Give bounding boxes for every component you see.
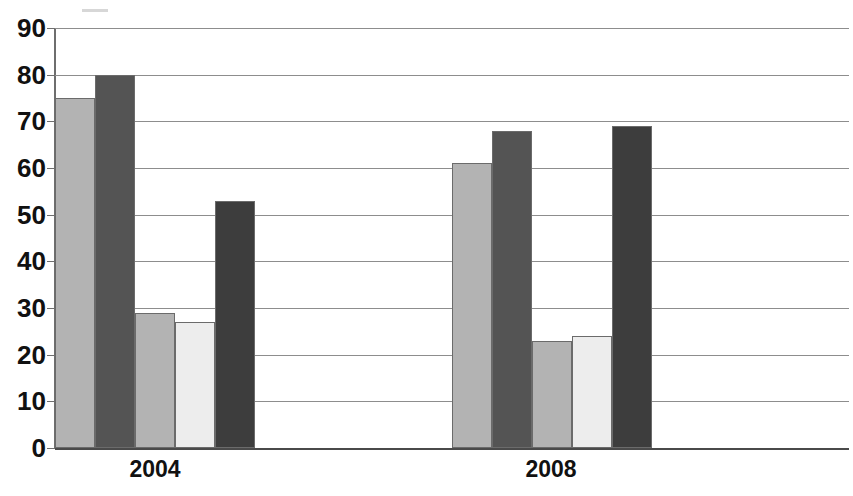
y-axis-tick-60 — [47, 168, 55, 169]
y-axis-tick-10 — [47, 401, 55, 402]
y-axis-label-40: 40 — [0, 248, 46, 274]
bar-2004-series-4 — [175, 322, 215, 448]
bar-2004-series-2 — [95, 75, 135, 448]
y-axis-tick-50 — [47, 215, 55, 216]
chart-title-strip — [0, 0, 853, 14]
y-axis-tick-40 — [47, 261, 55, 262]
bar-2004-series-5 — [215, 201, 255, 448]
bar-chart: 9080706050403020100 20042008 — [0, 0, 853, 496]
y-axis-tick-90 — [47, 28, 55, 29]
y-axis-label-60: 60 — [0, 155, 46, 181]
bar-2008-series-1 — [452, 163, 492, 448]
bar-2008-series-2 — [492, 131, 532, 448]
legend-swatch-icon — [82, 9, 108, 12]
y-axis-tick-20 — [47, 355, 55, 356]
gridline-70 — [55, 121, 849, 122]
y-axis-label-90: 90 — [0, 15, 46, 41]
y-axis-label-30: 30 — [0, 295, 46, 321]
bar-2008-series-5 — [612, 126, 652, 448]
bar-2008-series-4 — [572, 336, 612, 448]
gridline-80 — [55, 75, 849, 76]
y-axis-tick-labels: 9080706050403020100 — [0, 28, 48, 448]
bar-2004-series-1 — [55, 98, 95, 448]
y-axis-label-10: 10 — [0, 388, 46, 414]
x-axis-baseline — [55, 448, 849, 450]
bar-2004-series-3 — [135, 313, 175, 448]
y-axis-label-20: 20 — [0, 342, 46, 368]
plot-area — [55, 28, 849, 448]
y-axis-label-0: 0 — [0, 435, 46, 461]
bar-2008-series-3 — [532, 341, 572, 448]
y-axis-label-50: 50 — [0, 202, 46, 228]
y-axis-label-80: 80 — [0, 62, 46, 88]
y-axis-tick-80 — [47, 75, 55, 76]
x-axis-label-2004: 2004 — [95, 458, 215, 481]
y-axis-tick-70 — [47, 121, 55, 122]
x-axis-label-2008: 2008 — [491, 458, 611, 481]
gridline-90 — [55, 28, 849, 29]
y-axis-label-70: 70 — [0, 108, 46, 134]
y-axis-tick-30 — [47, 308, 55, 309]
y-axis-tick-0 — [47, 448, 55, 449]
